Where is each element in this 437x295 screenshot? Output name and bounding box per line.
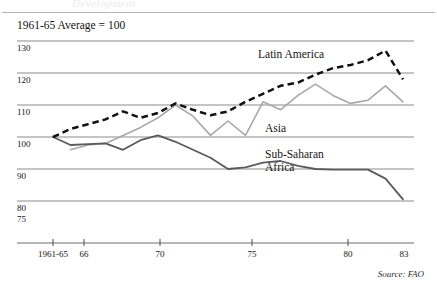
y-tick-label-90: 90 bbox=[17, 172, 26, 181]
top-divider-rule bbox=[2, 12, 435, 13]
series-label-asia: Asia bbox=[265, 122, 286, 135]
series-label-sub-saharan-africa-line1: Sub-Saharan bbox=[265, 148, 324, 161]
y-tick-label-120: 120 bbox=[17, 76, 31, 85]
y-tick-label-75: 75 bbox=[17, 215, 26, 224]
x-tick-label-83: 83 bbox=[390, 250, 418, 259]
series-line-sub-saharan-africa bbox=[53, 135, 403, 199]
x-axis bbox=[17, 239, 414, 246]
x-tick-label-66: 66 bbox=[70, 250, 98, 259]
y-tick-label-130: 130 bbox=[17, 44, 31, 53]
gridlines bbox=[17, 41, 414, 201]
x-tick-label-80: 80 bbox=[334, 250, 362, 259]
series-line-asia bbox=[71, 84, 404, 150]
cropped-title-fragment: Development bbox=[72, 0, 136, 9]
y-tick-label-80: 80 bbox=[17, 204, 26, 213]
chart-caption: 1961-65 Average = 100 bbox=[17, 19, 125, 31]
series-line-latin-america bbox=[53, 51, 403, 137]
x-tick-label-70: 70 bbox=[146, 250, 174, 259]
y-tick-label-110: 110 bbox=[17, 108, 30, 117]
y-tick-label-100: 100 bbox=[17, 140, 31, 149]
chart-figure: Development 1961-65 Average = 100 130 12… bbox=[0, 0, 437, 295]
source-note: Source: FAO bbox=[378, 269, 424, 279]
series-label-latin-america: Latin America bbox=[258, 48, 324, 61]
series-label-sub-saharan-africa-line2: Africa bbox=[265, 161, 294, 174]
x-tick-label-75: 75 bbox=[238, 250, 266, 259]
